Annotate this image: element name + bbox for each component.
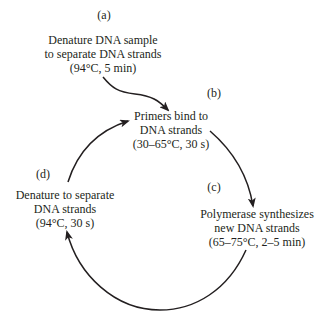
step-a-text: Denature DNA sample to separate DNA stra… xyxy=(45,33,162,75)
step-a-line: Denature DNA sample xyxy=(45,33,162,47)
step-b-line: DNA strands xyxy=(133,123,209,137)
pcr-cycle-diagram: (a) (b) (c) (d) Denature DNA sample to s… xyxy=(0,0,322,327)
arrow-a-to-b xyxy=(103,77,168,110)
step-c-label: (c) xyxy=(207,180,220,194)
step-c-line: (65–75°C, 2–5 min) xyxy=(200,235,314,249)
step-d-line: DNA strands xyxy=(16,202,115,216)
step-c-line: new DNA strands xyxy=(200,221,314,235)
step-b-line: (30–65°C, 30 s) xyxy=(133,137,209,151)
arrow-b-to-c xyxy=(210,131,253,206)
step-b-label: (b) xyxy=(207,86,221,100)
step-d-line: Denature to separate xyxy=(16,188,115,202)
step-a-line: to separate DNA strands xyxy=(45,47,162,61)
step-b-text: Primers bind to DNA strands (30–65°C, 30… xyxy=(133,109,209,151)
step-d-text: Denature to separate DNA strands (94°C, … xyxy=(16,188,115,230)
step-d-label: (d) xyxy=(36,167,50,181)
step-a-label: (a) xyxy=(97,8,110,22)
step-b-line: Primers bind to xyxy=(133,109,209,123)
arrow-d-to-b xyxy=(68,121,128,182)
step-a-line: (94°C, 5 min) xyxy=(45,61,162,75)
step-c-line: Polymerase synthesizes xyxy=(200,207,314,221)
step-c-text: Polymerase synthesizes new DNA strands (… xyxy=(200,207,314,249)
step-d-line: (94°C, 30 s) xyxy=(16,216,115,230)
